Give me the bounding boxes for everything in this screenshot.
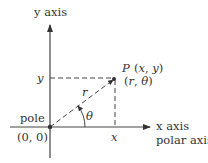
pole-dot <box>48 125 52 129</box>
theta-arc <box>78 106 85 127</box>
x-tick-label: x <box>111 130 118 144</box>
point-polar-coords: (r, θ) <box>124 74 153 88</box>
radius-label: r <box>82 85 89 99</box>
y-tick-label: y <box>36 71 44 85</box>
y-axis-label: y axis <box>33 5 67 19</box>
x-axis-label: x axis <box>156 119 189 133</box>
point-p-dot <box>112 77 116 81</box>
theta-label: θ <box>86 109 93 123</box>
polar-coordinates-diagram: y axis y P (x, y) (r, θ) r θ pole (0, 0)… <box>0 0 208 163</box>
origin-label: (0, 0) <box>17 130 48 144</box>
polar-axis-label: polar axis <box>156 133 208 147</box>
point-rect-coords: (x, y) <box>134 61 163 75</box>
pole-label: pole <box>20 111 45 125</box>
point-p-label: P <box>121 61 130 75</box>
